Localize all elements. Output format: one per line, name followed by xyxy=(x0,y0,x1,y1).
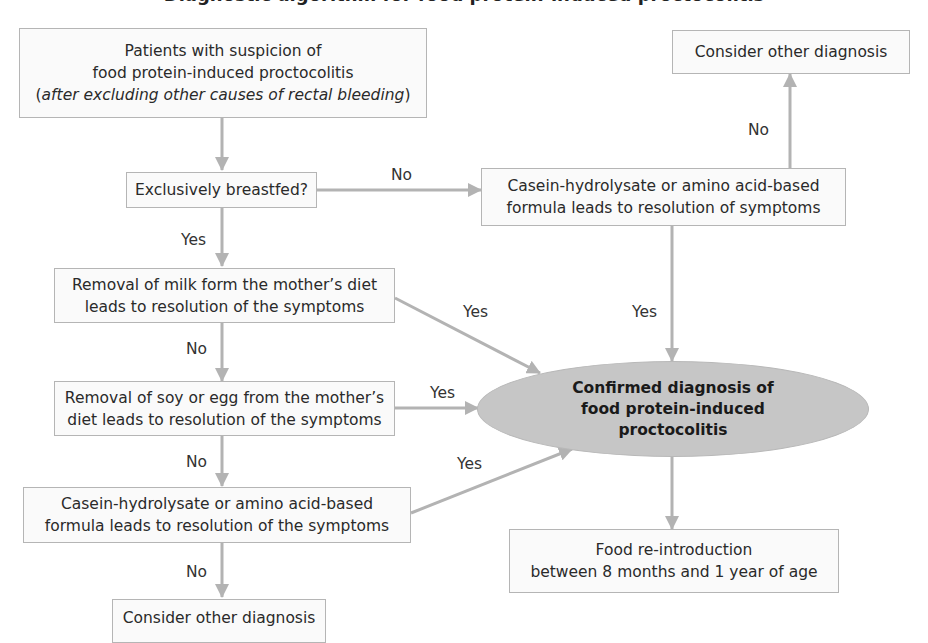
node-start-suspicion: Patients with suspicion of food protein-… xyxy=(19,28,427,118)
node-confirmed-diagnosis: Confirmed diagnosis of food protein-indu… xyxy=(477,361,869,457)
node-formula-right: Casein-hydrolysate or amino acid-based f… xyxy=(481,168,846,226)
edge-label-breastfed-no: No xyxy=(391,166,412,184)
node-other-diagnosis-top-label: Consider other diagnosis xyxy=(695,41,888,63)
node-confirmed-line1: Confirmed diagnosis of xyxy=(572,378,774,399)
node-milk-removal-line2: leads to resolution of the symptoms xyxy=(85,296,365,318)
node-formula-left-line1: Casein-hydrolysate or amino acid-based xyxy=(61,493,373,515)
node-exclusively-breastfed-label: Exclusively breastfed? xyxy=(135,179,308,201)
edge-label-soy-no: No xyxy=(186,453,207,471)
node-other-diagnosis-top: Consider other diagnosis xyxy=(672,30,910,74)
node-food-reintroduction: Food re-introduction between 8 months an… xyxy=(509,529,839,593)
node-milk-removal-line1: Removal of milk form the mother’s diet xyxy=(72,274,377,296)
node-confirmed-line3: proctocolitis xyxy=(618,420,727,441)
paren-close: ) xyxy=(404,86,410,104)
edge-label-breastfed-yes: Yes xyxy=(181,231,206,249)
node-food-reintroduction-line1: Food re-introduction xyxy=(596,539,753,561)
node-other-diagnosis-bottom-label: Consider other diagnosis xyxy=(123,607,316,629)
node-start-line2: food protein-induced proctocolitis xyxy=(92,62,353,84)
edge-label-formula-right-no: No xyxy=(748,121,769,139)
node-confirmed-line2: food protein-induced xyxy=(581,399,765,420)
node-soy-egg-removal-line1: Removal of soy or egg from the mother’s xyxy=(65,387,384,409)
node-food-reintroduction-line2: between 8 months and 1 year of age xyxy=(530,561,817,583)
node-soy-egg-removal: Removal of soy or egg from the mother’s … xyxy=(54,381,395,436)
node-milk-removal: Removal of milk form the mother’s diet l… xyxy=(54,268,395,323)
arrow-formula-left-yes xyxy=(411,449,572,513)
edge-label-formula-left-no: No xyxy=(186,563,207,581)
node-other-diagnosis-bottom: Consider other diagnosis xyxy=(112,599,326,643)
edge-label-milk-yes: Yes xyxy=(463,303,488,321)
edge-label-formula-right-yes: Yes xyxy=(632,303,657,321)
node-formula-left-line2: formula leads to resolution of the sympt… xyxy=(45,515,389,537)
edge-label-formula-left-yes: Yes xyxy=(457,455,482,473)
edge-label-soy-yes: Yes xyxy=(430,384,455,402)
node-soy-egg-removal-line2: diet leads to resolution of the symptoms xyxy=(67,409,381,431)
node-start-line3-italic: after excluding other causes of rectal b… xyxy=(42,86,405,104)
node-formula-left: Casein-hydrolysate or amino acid-based f… xyxy=(23,487,411,543)
node-start-line1: Patients with suspicion of xyxy=(125,40,322,62)
node-formula-right-line1: Casein-hydrolysate or amino acid-based xyxy=(507,175,819,197)
edge-label-milk-no: No xyxy=(186,340,207,358)
node-start-line3: (after excluding other causes of rectal … xyxy=(36,84,411,106)
node-formula-right-line2: formula leads to resolution of symptoms xyxy=(506,197,820,219)
node-exclusively-breastfed: Exclusively breastfed? xyxy=(126,172,317,208)
